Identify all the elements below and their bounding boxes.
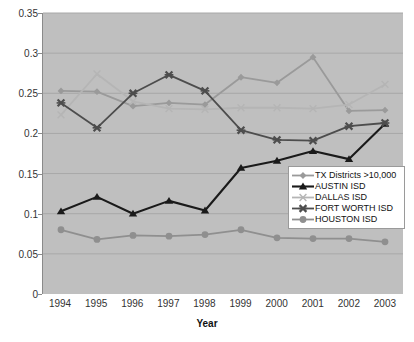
x-axis-tick-label: 1996: [121, 298, 143, 309]
x-axis-tick-label: 1995: [85, 298, 107, 309]
x-axis-tick-label: 2001: [302, 298, 324, 309]
chart-legend: TX Districts >10,000 AUSTIN ISD DALLAS I…: [288, 166, 405, 229]
series-point: [238, 226, 245, 233]
series-point: [382, 238, 389, 245]
series-point: [382, 81, 389, 88]
series-point: [310, 235, 317, 242]
x-axis-tick-label: 2003: [374, 298, 396, 309]
legend-item-label: FORT WORTH ISD: [315, 203, 393, 214]
x-axis-tick-label: 1997: [157, 298, 179, 309]
x-axis-tick-label: 1998: [193, 298, 215, 309]
series-point: [93, 124, 102, 131]
legend-item[interactable]: FORT WORTH ISD: [291, 203, 402, 214]
series-point: [58, 112, 65, 119]
series-point: [274, 234, 281, 241]
legend-item[interactable]: HOUSTON ISD: [291, 214, 402, 225]
legend-item[interactable]: AUSTIN ISD: [291, 181, 402, 192]
series-point: [201, 87, 210, 94]
series-point: [309, 147, 317, 154]
series-point: [58, 87, 65, 94]
series-point: [58, 226, 65, 233]
x-axis-tick-label: 2000: [266, 298, 288, 309]
series-point: [382, 107, 389, 114]
series-point: [237, 127, 246, 134]
y-axis-tick-label: 0.35: [0, 8, 38, 19]
series-point: [165, 71, 174, 78]
legend-item-label: TX Districts >10,000: [315, 170, 396, 181]
legend-item[interactable]: TX Districts >10,000: [291, 170, 402, 181]
x-axis-tick-label: 1994: [49, 298, 71, 309]
line-chart: 00.050.10.150.20.250.30.35 1994199519961…: [0, 0, 414, 342]
legend-item-label: HOUSTON ISD: [315, 214, 377, 225]
series-point: [129, 90, 138, 97]
y-axis-tick-label: 0.15: [0, 168, 38, 179]
circle-marker-icon: [291, 214, 315, 225]
y-axis-tick-label: 0: [0, 289, 38, 300]
series-point: [346, 235, 353, 242]
series-point: [130, 232, 137, 239]
series-point: [166, 233, 173, 240]
y-axis: 00.050.10.150.20.250.30.35: [0, 13, 38, 294]
series-point: [94, 88, 101, 95]
plot-area: [42, 13, 403, 294]
series-point: [94, 236, 101, 243]
series-point: [165, 197, 173, 204]
x-bold-marker-icon: [291, 203, 315, 214]
series-point: [273, 136, 282, 143]
y-axis-tick-label: 0.05: [0, 248, 38, 259]
legend-item[interactable]: DALLAS ISD: [291, 192, 402, 203]
data-series-layer: [43, 13, 403, 294]
series-point: [93, 193, 101, 200]
series-point: [202, 231, 209, 238]
legend-item-label: DALLAS ISD: [315, 192, 367, 203]
series-point: [94, 71, 101, 78]
x-marker-icon: [291, 192, 315, 203]
series-point: [345, 123, 354, 130]
triangle-marker-icon: [291, 181, 315, 192]
series-point: [309, 137, 318, 144]
y-axis-tick-label: 0.25: [0, 88, 38, 99]
y-axis-tick-label: 0.1: [0, 208, 38, 219]
series-line: [61, 230, 385, 242]
series-line: [61, 74, 385, 115]
x-axis-title: Year: [0, 318, 414, 329]
diamond-marker-icon: [291, 170, 315, 181]
series-point: [57, 100, 66, 107]
x-axis-tick-label: 1999: [229, 298, 251, 309]
y-axis-tick-label: 0.2: [0, 128, 38, 139]
y-axis-tick-label: 0.3: [0, 48, 38, 59]
x-axis-tick-label: 2002: [338, 298, 360, 309]
legend-item-label: AUSTIN ISD: [315, 181, 366, 192]
y-axis-tick-mark: [38, 294, 42, 295]
x-axis: 1994199519961997199819992000200120022003: [42, 298, 403, 314]
